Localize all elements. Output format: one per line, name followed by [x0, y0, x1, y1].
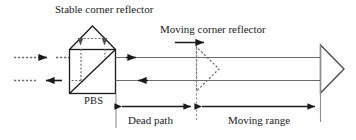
label-dead-path: Dead path [128, 115, 173, 126]
moving-corner-reflector-start [197, 44, 220, 120]
figure-optical-interferometer-diagram: Stable corner reflector Moving corner re… [0, 0, 356, 140]
diagram-canvas [0, 0, 356, 140]
stable-corner-reflector [70, 26, 116, 50]
polarizing-beam-splitter [70, 50, 116, 94]
label-stable-corner-reflector: Stable corner reflector [55, 4, 153, 15]
label-pbs: PBS [84, 96, 103, 107]
label-moving-range: Moving range [228, 115, 290, 126]
beamsplitter-diagonal-coating [70, 50, 116, 94]
label-moving-corner-reflector: Moving corner reflector [160, 24, 266, 35]
moving-corner-reflector-end [321, 45, 345, 122]
